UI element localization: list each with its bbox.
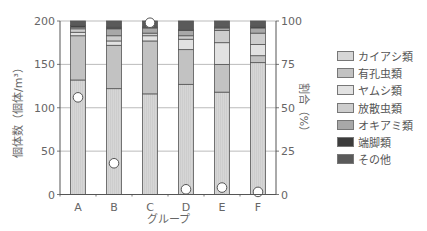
bar-segment [143,41,158,94]
bar-segment [215,43,230,65]
bar-segment [179,84,194,194]
legend-swatch-icon [337,154,354,164]
legend-item: 端脚類 [337,133,413,150]
bar-segment [107,89,122,195]
bar-segment [215,92,230,194]
percentage-marker [253,187,263,197]
bar-segment [71,21,86,25]
x-tick-label: B [110,201,118,214]
bar-segment [107,29,122,36]
bar-segment [107,45,122,88]
percentage-marker [181,184,191,194]
y2-tick-label: 50 [281,102,295,115]
legend-item: ヤムシ類 [337,82,413,99]
legend-swatch-icon [337,85,354,95]
bar-A [71,21,86,195]
bar-segment [251,33,266,44]
bar-segment [143,28,158,33]
bar-segment [215,21,230,27]
y-tick-label: 200 [34,15,55,28]
y-axis-title: 個体数（個体/m³） [11,62,25,158]
percentage-marker [73,93,83,103]
bar-segment [215,31,230,43]
bar-segment [107,21,122,27]
x-tick-label: E [219,201,226,214]
bar-segment [107,41,122,45]
legend-item: カイアシ類 [337,47,413,64]
y-tick-label: 0 [48,189,55,202]
bar-segment [215,64,230,92]
legend-label: オキアミ類 [358,117,413,133]
y2-axis-title: 割合（%） [297,83,311,137]
bar-E [215,21,230,195]
percentage-marker [109,158,119,168]
bar-segment [251,56,266,63]
bar-segment [71,29,86,32]
bar-segment [251,44,266,55]
legend-swatch-icon [337,120,354,130]
bar-segment [71,36,86,80]
bar-segment [107,36,122,41]
percentage-marker [145,18,155,28]
y2-tick-label: 75 [281,58,295,71]
legend-item: 有孔虫類 [337,64,413,81]
legend-swatch-icon [337,137,354,147]
legend-label: 有孔虫類 [358,65,402,81]
y2-tick-label: 0 [281,189,288,202]
bar-segment [179,21,194,30]
y2-tick-label: 100 [281,15,302,28]
bar-segment [179,50,194,85]
bar-segment [143,94,158,195]
y-tick-label: 100 [34,102,55,115]
percentage-marker [217,183,227,193]
legend-label: 端脚類 [358,134,391,150]
y-tick-label: 50 [41,145,55,158]
bar-segment [179,39,194,49]
x-tick-label: A [74,201,82,214]
legend-swatch-icon [337,68,354,78]
legend-label: ヤムシ類 [358,82,402,98]
bar-C [143,21,158,195]
legend-label: 放散虫類 [358,100,402,116]
bar-F [251,21,266,195]
bar-segment [251,28,266,33]
bar-segment [143,36,158,41]
bar-D [179,21,194,195]
legend-item: 放散虫類 [337,99,413,116]
bar-segment [179,36,194,39]
y2-tick-label: 25 [281,145,295,158]
legend-label: その他 [358,151,391,167]
legend-item: オキアミ類 [337,116,413,133]
legend-swatch-icon [337,103,354,113]
x-tick-label: F [255,201,261,214]
x-axis-title: グループ [147,212,190,226]
legend-swatch-icon [337,51,354,61]
gridlines [60,21,276,151]
legend-item: その他 [337,151,413,168]
legend-label: カイアシ類 [358,48,413,64]
legend: カイアシ類有孔虫類ヤムシ類放散虫類オキアミ類端脚類その他 [337,47,413,168]
bar-segment [179,31,194,36]
bar-segment [251,63,266,195]
bar-segment [71,32,86,35]
bar-segment [251,21,266,26]
y-tick-label: 150 [34,58,55,71]
